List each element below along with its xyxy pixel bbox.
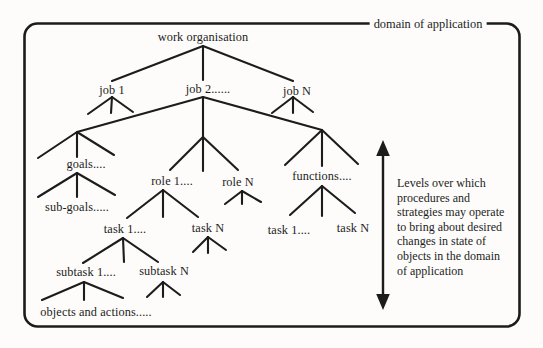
- levels-double-arrow-icon: [376, 140, 390, 310]
- diagram-artwork: [0, 0, 543, 348]
- edge-rolen-left: [225, 191, 242, 204]
- edge-task1-subtaskn: [123, 238, 158, 262]
- edge-taskn-left: [193, 237, 208, 252]
- node-functions: functions....: [292, 170, 351, 182]
- edge-role1-task1: [127, 190, 163, 218]
- arrow-down-head: [376, 294, 390, 310]
- node-role-1: role 1....: [151, 175, 193, 187]
- edge-job1-mid: [111, 97, 112, 113]
- node-work-organisation: work organisation: [158, 31, 249, 43]
- edge-subtaskn-right: [163, 282, 180, 295]
- edge-job1-left: [88, 97, 112, 114]
- edge-roles-rolen: [203, 137, 238, 170]
- edge-jobn-right: [293, 97, 313, 112]
- side-note-line: of application: [397, 264, 515, 279]
- node-job-1: job 1: [99, 84, 124, 96]
- node-goals: goals....: [66, 158, 105, 170]
- edge-role1-taskn: [163, 190, 198, 217]
- edge-taskn-right: [208, 237, 226, 250]
- domain-boundary-box: [25, 24, 520, 327]
- edge-functions-left: [285, 130, 322, 165]
- domain-of-application-label: domain of application: [370, 16, 487, 33]
- node-task-1-roles: task 1....: [104, 223, 146, 235]
- figure-canvas: domain of application work organisation …: [0, 0, 543, 348]
- edge-goals-right: [77, 132, 114, 155]
- edge-functions-right: [322, 130, 358, 164]
- side-note-line: changes in state of: [397, 234, 515, 249]
- node-job-n: job N: [283, 85, 311, 97]
- arrow-up-head: [376, 140, 390, 156]
- levels-side-note: Levels over which procedures and strateg…: [397, 176, 515, 278]
- edge-goals-left: [38, 132, 77, 158]
- node-task-1-functions: task 1....: [268, 224, 310, 236]
- node-task-n-roles: task N: [192, 222, 224, 234]
- edge-task1-subtask1: [83, 238, 123, 263]
- side-note-line: strategies may operate: [397, 205, 515, 220]
- edge-subgoals-right: [77, 173, 115, 195]
- edge-rolen-right: [242, 191, 261, 202]
- edge-subtaskn-left: [147, 282, 163, 297]
- node-subtask-n: subtask N: [139, 265, 189, 277]
- edge-job1-right: [112, 97, 133, 112]
- edge-jobn-left: [272, 97, 293, 113]
- node-objects-and-actions: objects and actions.....: [40, 306, 151, 318]
- node-sub-goals: sub-goals.....: [45, 201, 109, 213]
- node-job-2: job 2......: [186, 83, 230, 95]
- edge-task1-mid: [123, 238, 124, 262]
- edge-subgoals-left: [38, 173, 77, 197]
- edge-root-job1: [112, 46, 203, 81]
- edge-subtask1-left: [42, 282, 84, 300]
- edge-fn-task1: [290, 186, 322, 215]
- edge-fn-taskn: [322, 186, 355, 213]
- node-task-n-functions: task N: [337, 222, 369, 234]
- edge-root-jobn: [203, 46, 293, 81]
- edge-subtask1-right: [84, 282, 123, 298]
- node-subtask-1: subtask 1....: [56, 266, 116, 278]
- side-note-line: Levels over which: [397, 176, 515, 191]
- edge-job2-goals: [77, 97, 203, 132]
- side-note-line: to bring about desired: [397, 220, 515, 235]
- side-note-line: procedures and: [397, 191, 515, 206]
- node-role-n: role N: [222, 176, 254, 188]
- side-note-line: objects in the domain: [397, 249, 515, 264]
- edge-roles-role1: [170, 137, 203, 170]
- edge-job2-functions: [203, 97, 322, 130]
